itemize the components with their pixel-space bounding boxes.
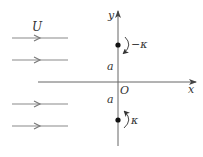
- counterclockwise-arrow-icon: [124, 112, 129, 128]
- origin-label: O: [120, 84, 129, 97]
- streamline-4: [12, 123, 68, 129]
- vortex-point-icon: [115, 117, 120, 122]
- lower-vortex: κ: [115, 112, 139, 128]
- upper-vortex-strength-label: −κ: [131, 38, 148, 51]
- y-axis-label: y: [107, 9, 115, 22]
- vortex-pair-diagram: U y x O a a −κ κ: [0, 0, 203, 157]
- lower-distance-label: a: [107, 93, 114, 106]
- upper-distance-label: a: [107, 60, 114, 73]
- streamline-2: [12, 57, 68, 63]
- x-axis-label: x: [188, 83, 195, 96]
- upper-vortex: −κ: [115, 37, 148, 53]
- vortex-point-icon: [115, 42, 120, 47]
- streamline-1: [12, 35, 68, 41]
- flow-speed-label: U: [32, 20, 43, 34]
- streamline-3: [12, 101, 68, 107]
- clockwise-arrow-icon: [124, 37, 129, 53]
- lower-vortex-strength-label: κ: [130, 114, 139, 127]
